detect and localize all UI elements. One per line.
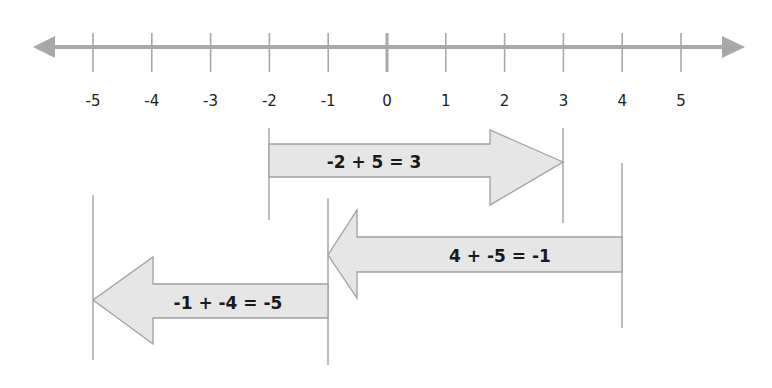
arrow-minus2-plus-5: -2 + 5 = 3 (269, 130, 563, 205)
tick-label: 5 (676, 92, 686, 110)
tick-label: 0 (382, 92, 392, 110)
tick-label: -2 (262, 92, 277, 110)
arrow-minus1-plus-minus4: -1 + -4 = -5 (93, 257, 328, 344)
arrow-4-plus-minus5: 4 + -5 = -1 (328, 210, 622, 298)
equation-label: -1 + -4 = -5 (174, 293, 283, 313)
left-arrowhead-icon (33, 36, 55, 58)
tick-label: -4 (144, 92, 159, 110)
tick-label: 3 (559, 92, 569, 110)
tick-label: 2 (500, 92, 510, 110)
tick-label: 4 (617, 92, 627, 110)
number-line-diagram: -5-4-3-2-1012345 -2 + 5 = 3 4 + -5 = -1 … (0, 0, 772, 388)
tick-label: -1 (321, 92, 336, 110)
equation-label: 4 + -5 = -1 (449, 246, 551, 266)
number-line: -5-4-3-2-1012345 (33, 33, 745, 110)
tick-label: -3 (203, 92, 218, 110)
tick-label: -5 (86, 92, 101, 110)
tick-label: 1 (441, 92, 451, 110)
right-arrowhead-icon (722, 36, 745, 58)
equation-label: -2 + 5 = 3 (327, 152, 422, 172)
